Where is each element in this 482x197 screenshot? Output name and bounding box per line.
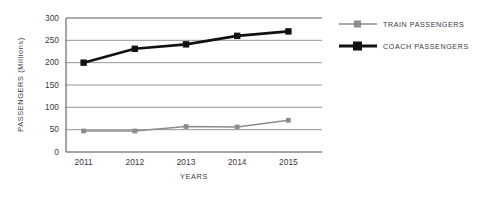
- data-point-marker: [184, 124, 189, 129]
- x-tick-label: 2011: [75, 157, 93, 167]
- x-axis-title: YEARS: [66, 172, 322, 181]
- legend-swatch-train: [338, 18, 378, 30]
- legend-item-train[interactable]: TRAIN PASSENGERS: [338, 13, 482, 35]
- y-axis-title: PASSENGERS (Millions): [16, 20, 25, 150]
- data-point-marker: [234, 33, 240, 39]
- y-tick-label: 50: [50, 124, 60, 134]
- line-chart-figure: 05010015020025030020112012201320142015 P…: [0, 0, 482, 197]
- y-tick-label: 100: [45, 102, 59, 112]
- data-point-marker: [132, 129, 137, 134]
- y-tick-label: 150: [45, 80, 59, 90]
- data-point-marker: [286, 118, 291, 123]
- data-point-marker: [285, 28, 291, 34]
- data-point-marker: [81, 129, 86, 134]
- x-tick-label: 2014: [228, 157, 247, 167]
- data-point-marker: [80, 59, 86, 65]
- y-tick-label: 200: [45, 57, 59, 67]
- y-tick-label: 250: [45, 35, 59, 45]
- x-tick-label: 2012: [125, 157, 144, 167]
- y-tick-label: 0: [54, 147, 59, 157]
- legend-label-train: TRAIN PASSENGERS: [383, 20, 464, 29]
- y-tick-label: 300: [45, 13, 59, 23]
- legend-swatch-coach: [338, 40, 378, 52]
- legend-item-coach[interactable]: COACH PASSENGERS: [338, 35, 482, 57]
- x-tick-label: 2015: [279, 157, 298, 167]
- legend-label-coach: COACH PASSENGERS: [383, 42, 469, 51]
- x-tick-label: 2013: [177, 157, 196, 167]
- chart-legend: TRAIN PASSENGERS COACH PASSENGERS: [338, 13, 482, 57]
- data-point-marker: [235, 125, 240, 130]
- data-point-marker: [132, 46, 138, 52]
- data-point-marker: [183, 41, 189, 47]
